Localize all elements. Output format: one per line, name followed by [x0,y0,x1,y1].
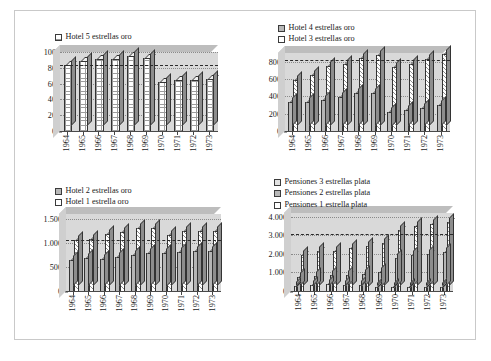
x-axis-tick-label: 1967 [339,294,355,310]
legend-item[interactable]: Hotel 3 estrellas oro [278,34,355,44]
bar-side-face [140,219,145,286]
x-axis-tick-label: 1970 [158,295,174,311]
legend-item[interactable]: Hotel 4 estrellas oro [278,23,355,33]
bar-group [335,53,352,131]
x-axis-tick-label: 1968 [355,294,371,310]
plot-area [59,52,218,132]
x-axis-tick-label: 1966 [317,135,334,151]
bar-side-face [197,242,202,286]
bar [158,82,167,131]
bar-side-face [375,84,380,126]
legend-item[interactable]: Hotel 2 estrellas oro [55,186,132,196]
bar-side-face [213,70,218,126]
bar-group [190,214,206,291]
bar-group [417,53,434,131]
x-axis-tick-label: 1973 [436,294,452,310]
x-axis-tick-label: 1970 [154,135,170,151]
bar-side-face [87,52,92,126]
bar-group [302,53,319,131]
bar-side-face [314,66,319,126]
bar-side-face [73,251,78,286]
x-axis-tick-label: 1972 [420,294,436,310]
bar [294,286,297,291]
bar-group [401,53,418,131]
bar-side-face [347,55,352,126]
bar-group [175,214,191,291]
x-axis-tick-label: 1964 [65,295,81,311]
bar [111,59,120,131]
bar-group [291,213,307,291]
x-axis-tick-label: 1969 [138,135,154,151]
bar [127,56,136,131]
x-axis-tick-label: 1973 [201,135,217,151]
bar-group [388,213,404,291]
legend-label: Pensiones 3 estrellas plata [285,177,371,187]
bar [359,285,362,291]
bar-side-face [166,244,171,287]
bar-side-face [119,248,124,286]
x-axis-tick-label: 1964 [290,294,306,310]
legend-item[interactable]: Pensiones 1 estrella plata [274,200,370,210]
bar-group [356,213,372,291]
bar-group [368,53,385,131]
x-axis-tick-label: 1972 [189,295,205,311]
bar-side-face [342,88,347,126]
legend-label: Hotel 2 estrellas oro [66,186,132,196]
bar-group [285,53,302,131]
plot-area [290,213,453,292]
legend-swatch-icon [55,188,62,195]
legend-label: Pensiones 1 estrella plata [285,200,368,210]
bar [437,105,442,131]
bar-group [144,214,160,291]
bar-side-face [186,222,191,286]
bar-group [82,214,98,291]
bar [321,100,326,131]
bar-side-face [104,250,109,286]
chart-panel-hotel-2-1-estrellas-oro: Hotel 2 estrellas oroHotel 1 estrella or… [15,175,245,339]
bar-side-face [171,226,176,286]
legend-item[interactable]: Hotel 1 estrella oro [55,197,132,207]
bar [190,80,199,131]
bar-side-face [380,46,385,126]
x-axis-tick-label: 1971 [170,135,186,151]
x-axis-tick-label: 1972 [416,135,433,151]
legend-swatch-icon [55,34,62,41]
legend-item[interactable]: Pensiones 3 estrellas plata [274,177,370,187]
reference-line [291,234,453,235]
bar-side-face [202,222,207,286]
bar-group [97,214,113,291]
figure-panel-container: Hotel 5 estrellas oro0204060801001964196… [14,10,476,340]
chart-legend: Hotel 4 estrellas oroHotel 3 estrellas o… [278,23,355,46]
bar [326,284,329,291]
bar-group [159,214,175,291]
legend-label: Pensiones 2 estrellas plata [285,188,371,198]
legend-item[interactable]: Pensiones 2 estrellas plata [274,188,370,198]
legend-item[interactable]: Hotel 5 estrellas oro [55,32,132,42]
x-axis-tick-label: 1969 [371,294,387,310]
y-axis: 05001.0001.500 [15,214,65,291]
bar-side-face [217,222,222,286]
legend-swatch-icon [274,202,281,209]
x-axis-tick-label: 1972 [185,135,201,151]
x-axis-tick-label: 1967 [334,135,351,151]
bar [407,287,410,291]
legend-label: Hotel 1 estrella oro [66,197,129,207]
bar [343,285,346,291]
bar [305,102,310,131]
chart-panel-pensiones-estrellas-plata: Pensiones 3 estrellas plataPensiones 2 e… [245,175,475,339]
bar-side-face [119,50,124,126]
x-axis-tick-label: 1973 [433,135,450,151]
bar-group [307,213,323,291]
bar-side-face [93,230,98,286]
bar-series-container [66,214,221,291]
bar [84,258,89,291]
bar [208,251,213,291]
bar-side-face [358,84,363,126]
bar [404,110,409,131]
bar [206,79,215,131]
bar-group [404,213,420,291]
bar-group [421,213,437,291]
x-axis-tick-label: 1966 [96,295,112,311]
x-axis: 1964196519661967196819691970197119721973 [290,294,452,310]
bar-side-face [396,58,401,126]
